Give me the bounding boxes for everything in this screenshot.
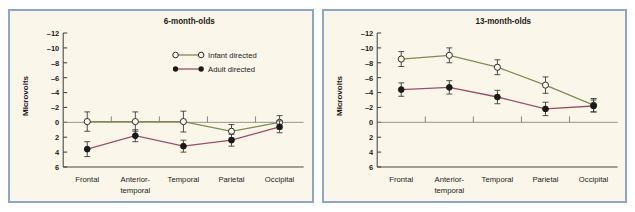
data-point-open-circle <box>180 118 186 124</box>
data-point-filled-circle <box>398 87 404 93</box>
y-tick-label: –2 <box>51 103 59 112</box>
figure-container: 6-month-olds–12–10–8–6–4–20246Microvolts… <box>0 0 635 212</box>
x-category-label: Occipital <box>265 175 295 184</box>
y-tick-label: –2 <box>364 103 372 112</box>
x-category-label: Temporal <box>481 175 513 184</box>
y-tick-label: –8 <box>51 59 59 68</box>
y-tick-label: –10 <box>47 44 59 53</box>
chart-title: 6-month-olds <box>164 17 216 26</box>
chart-panel-6-month-olds: 6-month-olds–12–10–8–6–4–20246Microvolts… <box>8 9 314 203</box>
x-category-label: Parietal <box>532 175 558 184</box>
data-point-filled-circle <box>84 146 90 152</box>
y-tick-label: 0 <box>55 118 59 127</box>
x-category-label: Temporal <box>168 175 200 184</box>
y-tick-label: –12 <box>360 29 372 38</box>
x-category-label: Anterior- <box>434 175 464 184</box>
chart-right-content: 13-month-olds–12–10–8–6–4–20246Microvolt… <box>334 17 617 195</box>
y-axis-title: Microvolts <box>21 75 30 116</box>
data-point-filled-circle <box>542 106 548 112</box>
chart-svg-left: 6-month-olds–12–10–8–6–4–20246Microvolts… <box>10 11 312 201</box>
y-axis-title: Microvolts <box>334 75 343 116</box>
legend-marker-open-circle <box>198 52 204 58</box>
data-point-open-circle <box>446 52 452 58</box>
y-tick-label: 6 <box>55 163 59 172</box>
y-tick-label: 4 <box>369 148 374 157</box>
data-point-filled-circle <box>181 143 187 149</box>
x-category-label: Occipital <box>578 175 608 184</box>
y-tick-label: –6 <box>364 74 372 83</box>
data-point-open-circle <box>398 56 404 62</box>
data-point-open-circle <box>84 118 90 124</box>
y-tick-label: –4 <box>364 88 373 97</box>
y-tick-label: –4 <box>51 88 60 97</box>
legend-marker-filled-circle <box>173 66 178 71</box>
y-tick-label: 2 <box>369 133 373 142</box>
data-point-filled-circle <box>277 124 283 130</box>
y-tick-label: –6 <box>51 74 59 83</box>
x-category-label: temporal <box>120 186 150 195</box>
legend-marker-filled-circle <box>198 66 203 71</box>
y-tick-label: –8 <box>364 59 372 68</box>
y-tick-label: –10 <box>360 44 372 53</box>
x-category-label: Anterior- <box>121 175 151 184</box>
x-category-label: temporal <box>434 186 464 195</box>
x-category-label: Frontal <box>389 175 413 184</box>
chart-title: 13-month-olds <box>475 17 531 26</box>
data-point-open-circle <box>132 118 138 124</box>
y-tick-label: 2 <box>55 133 59 142</box>
data-point-filled-circle <box>494 94 500 100</box>
x-category-label: Parietal <box>218 175 244 184</box>
chart-panel-13-month-olds: 13-month-olds–12–10–8–6–4–20246Microvolt… <box>322 9 628 203</box>
data-point-open-circle <box>494 64 500 70</box>
data-point-open-circle <box>542 82 548 88</box>
data-point-filled-circle <box>590 103 596 109</box>
y-tick-label: 4 <box>55 148 60 157</box>
y-tick-label: –12 <box>47 29 59 38</box>
chart-svg-right: 13-month-olds–12–10–8–6–4–20246Microvolt… <box>324 11 626 201</box>
data-point-filled-circle <box>132 133 138 139</box>
legend-marker-open-circle <box>173 52 179 58</box>
x-category-label: Frontal <box>75 175 99 184</box>
data-point-filled-circle <box>229 137 235 143</box>
legend-label-0: Infant directed <box>208 51 257 60</box>
legend-label-1: Adult directed <box>208 65 255 74</box>
chart-left-content: 6-month-olds–12–10–8–6–4–20246Microvolts… <box>21 17 304 195</box>
data-point-filled-circle <box>446 84 452 90</box>
y-tick-label: 0 <box>369 118 373 127</box>
data-point-open-circle <box>228 128 234 134</box>
y-tick-label: 6 <box>369 163 373 172</box>
